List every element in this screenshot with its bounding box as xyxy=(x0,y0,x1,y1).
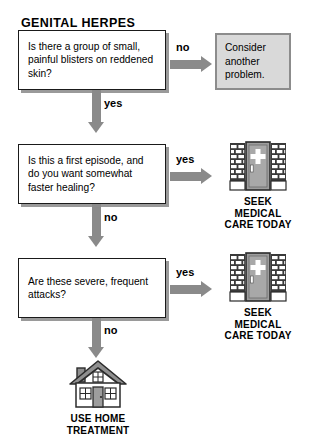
seek-line-1: SEEK xyxy=(212,307,304,319)
outcome-consider-another-problem: Consider another problem. xyxy=(215,33,291,90)
branch-label-q3-yes: yes xyxy=(176,266,194,278)
arrow-q3-no xyxy=(88,318,105,358)
arrow-q1-yes xyxy=(88,90,105,133)
home-line-2: TREATMENT xyxy=(52,425,144,437)
decision-box-1: Is there a group of small, painful blist… xyxy=(18,30,166,90)
outcome-seek-medical-care-1: SEEK MEDICAL CARE TODAY xyxy=(212,141,304,231)
decision-box-3: Are these severe, frequent attacks? xyxy=(18,258,166,318)
outcome-seek-caption-1: SEEK MEDICAL CARE TODAY xyxy=(212,196,304,231)
decision-box-3-text: Are these severe, frequent attacks? xyxy=(19,275,165,302)
seek-line-3: CARE TODAY xyxy=(212,330,304,342)
outcome-use-home-treatment: USE HOME TREATMENT xyxy=(52,358,144,436)
seek-line-1: SEEK xyxy=(212,196,304,208)
branch-label-q1-no: no xyxy=(176,41,189,53)
flowchart: GENITAL HERPES Is there a group of small… xyxy=(0,0,311,444)
branch-label-q1-yes: yes xyxy=(104,97,122,109)
arrow-q2-yes xyxy=(170,168,212,185)
arrow-q2-no xyxy=(88,204,105,247)
decision-box-2-text: Is this a first episode, and do you want… xyxy=(19,154,165,194)
hospital-icon xyxy=(228,252,288,304)
outcome-seek-caption-2: SEEK MEDICAL CARE TODAY xyxy=(212,307,304,342)
outcome-seek-medical-care-2: SEEK MEDICAL CARE TODAY xyxy=(212,252,304,342)
decision-box-1-text: Is there a group of small, painful blist… xyxy=(19,40,165,80)
outcome-consider-text: Consider another problem. xyxy=(217,41,289,81)
outcome-home-caption: USE HOME TREATMENT xyxy=(52,413,144,436)
seek-line-2: MEDICAL xyxy=(212,319,304,331)
arrow-q3-yes xyxy=(170,281,212,298)
house-icon xyxy=(67,358,129,410)
home-line-1: USE HOME xyxy=(52,413,144,425)
seek-line-2: MEDICAL xyxy=(212,208,304,220)
hospital-icon xyxy=(228,141,288,193)
branch-label-q2-no: no xyxy=(104,211,117,223)
decision-box-2: Is this a first episode, and do you want… xyxy=(18,144,166,204)
seek-line-3: CARE TODAY xyxy=(212,219,304,231)
arrow-q1-no xyxy=(170,56,212,73)
branch-label-q2-yes: yes xyxy=(176,153,194,165)
branch-label-q3-no: no xyxy=(104,324,117,336)
page-title: GENITAL HERPES xyxy=(21,16,135,30)
